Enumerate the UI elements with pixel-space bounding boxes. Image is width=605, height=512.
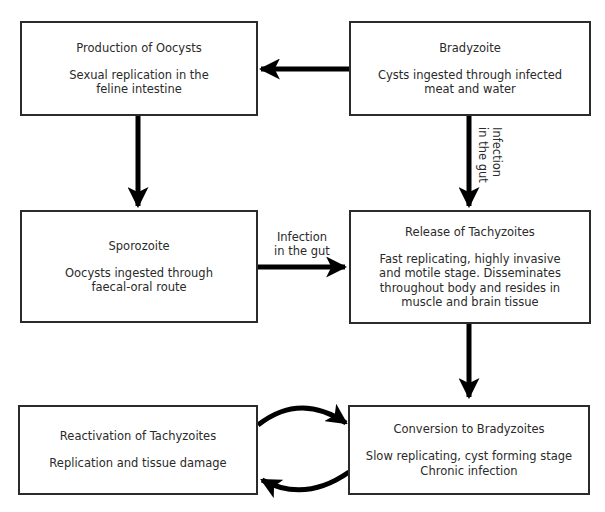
node-production-of-oocysts: Production of Oocysts Sexual replication… <box>20 21 258 116</box>
arrow-reactivation-to-conversion <box>258 408 346 425</box>
node-description: Replication and tissue damage <box>49 456 226 471</box>
node-title: Bradyzoite <box>439 41 501 55</box>
node-bradyzoite: Bradyzoite Cysts ingested through infect… <box>349 21 591 116</box>
node-title: Release of Tachyzoites <box>405 225 535 239</box>
arrow-conversion-to-reactivation <box>262 472 349 490</box>
node-release-of-tachyzoites: Release of Tachyzoites Fast replicating,… <box>349 210 591 324</box>
node-title: Production of Oocysts <box>76 41 201 55</box>
node-description: Fast replicating, highly invasive and mo… <box>379 252 561 310</box>
node-title: Sporozoite <box>109 239 170 253</box>
edge-label-sporozoite-to-tachyzoites: Infection in the gut <box>262 230 342 258</box>
node-title: Reactivation of Tachyzoites <box>60 429 216 443</box>
node-description: Sexual replication in the feline intesti… <box>69 68 208 97</box>
node-description: Slow replicating, cyst forming stage Chr… <box>366 449 572 478</box>
node-sporozoite: Sporozoite Oocysts ingested through faec… <box>20 210 258 323</box>
node-conversion-to-bradyzoites: Conversion to Bradyzoites Slow replicati… <box>348 405 590 495</box>
edge-label-bradyzoite-to-tachyzoites: Infection in the gut <box>476 127 504 183</box>
node-reactivation-of-tachyzoites: Reactivation of Tachyzoites Replication … <box>18 405 258 495</box>
node-description: Cysts ingested through infected meat and… <box>378 68 562 97</box>
node-description: Oocysts ingested through faecal-oral rou… <box>65 266 213 295</box>
node-title: Conversion to Bradyzoites <box>394 422 545 436</box>
